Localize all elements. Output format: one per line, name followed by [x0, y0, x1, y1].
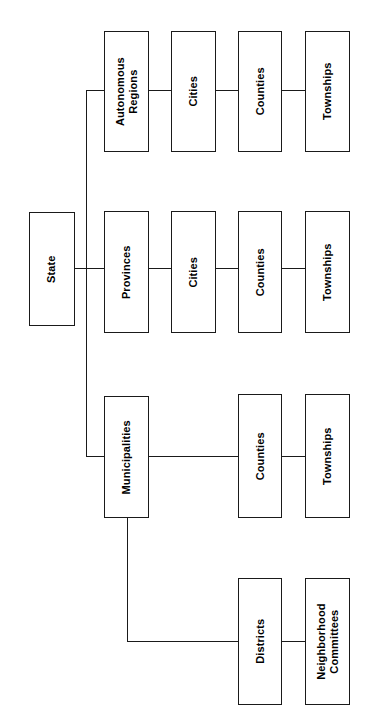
node-state[interactable]: State [29, 212, 75, 326]
node-townships-muni[interactable]: Townships [305, 394, 350, 518]
node-cities-ar[interactable]: Cities [171, 31, 216, 152]
connector-trunk-vertical [86, 90, 87, 457]
node-label-municipalities: Municipalities [120, 420, 133, 494]
connector-provinces-to-cities [148, 268, 172, 269]
connector-autonomous-to-cities [148, 90, 172, 91]
node-municipalities[interactable]: Municipalities [104, 396, 149, 518]
node-counties-ar[interactable]: Counties [238, 31, 282, 152]
node-label-counties-ar: Counties [254, 68, 267, 116]
node-label-provinces: Provinces [120, 245, 133, 298]
connector-counties-to-townships-muni [281, 456, 306, 457]
node-label-cities-ar: Cities [187, 76, 200, 107]
connector-trunk-to-municipalities [86, 456, 105, 457]
connector-state-to-trunk [75, 268, 105, 269]
node-label-state: State [46, 255, 59, 282]
connector-counties-to-townships-prov [281, 268, 306, 269]
node-townships-prov[interactable]: Townships [305, 211, 350, 333]
node-label-neighborhood-committees: Neighborhood Committees [315, 603, 340, 679]
node-label-districts: Districts [254, 619, 267, 664]
node-cities-prov[interactable]: Cities [171, 211, 216, 333]
node-label-townships-ar: Townships [321, 63, 334, 121]
node-autonomous-regions[interactable]: Autonomous Regions [104, 31, 149, 152]
connector-drop-to-districts [127, 641, 239, 642]
node-label-townships-muni: Townships [321, 427, 334, 485]
node-districts[interactable]: Districts [238, 578, 282, 705]
node-label-cities-prov: Cities [187, 257, 200, 288]
node-counties-prov[interactable]: Counties [238, 211, 282, 333]
node-label-counties-prov: Counties [254, 248, 267, 296]
node-neighborhood-committees[interactable]: Neighborhood Committees [305, 578, 350, 705]
node-counties-muni[interactable]: Counties [238, 394, 282, 518]
connector-municipalities-to-counties [148, 456, 239, 457]
node-label-townships-prov: Townships [321, 243, 334, 301]
connector-cities-to-counties-ar [215, 90, 239, 91]
connector-trunk-to-autonomous [86, 90, 105, 91]
connector-municipalities-drop [127, 518, 128, 642]
node-label-autonomous-regions: Autonomous Regions [114, 57, 139, 126]
connector-districts-to-neighborhood [281, 641, 306, 642]
connector-counties-to-townships-ar [281, 90, 306, 91]
node-townships-ar[interactable]: Townships [305, 31, 350, 152]
node-label-counties-muni: Counties [254, 432, 267, 480]
connector-cities-to-counties-prov [215, 268, 239, 269]
node-provinces[interactable]: Provinces [104, 211, 149, 333]
org-chart-canvas: StateAutonomous RegionsCitiesCountiesTow… [0, 0, 369, 727]
